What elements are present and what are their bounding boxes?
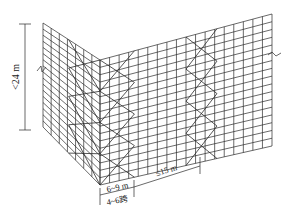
- scaffold-diagram: <24 m 6~9 m 4~6跨 ≤15 m: [0, 0, 289, 212]
- left-wall-ledger: [43, 84, 100, 133]
- brace-spans-label: 4~6跨: [106, 193, 130, 207]
- left-corner-brace: [69, 96, 100, 153]
- break-mark-right: [268, 52, 281, 56]
- height-label: <24 m: [10, 64, 21, 90]
- left-wall-ledger: [43, 72, 100, 119]
- scaffold-grid: [43, 14, 272, 185]
- left-wall-ledger: [43, 54, 100, 97]
- left-corner-brace: [69, 153, 100, 154]
